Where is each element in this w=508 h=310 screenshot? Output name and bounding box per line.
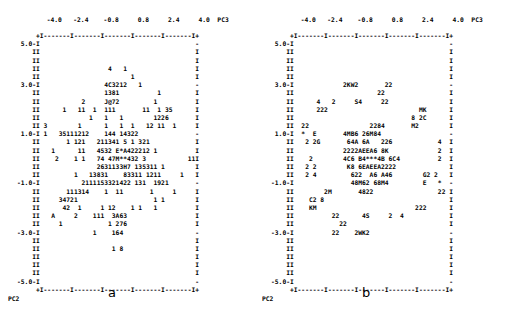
plot-grid-a: +I-------I-------I-------I-------I------… <box>6 32 250 294</box>
plot-row: II I <box>6 48 250 56</box>
axis-top-a: +I-------I-------I-------I-------I------… <box>6 32 250 40</box>
y-tick-label: I <box>6 147 36 155</box>
plot-row: II 1 11 4532 E*A422212 1 I <box>6 147 250 155</box>
y-tick-label: -1.0- <box>260 179 290 187</box>
x-axis-title-b: PC3 <box>471 16 482 23</box>
x-tick-labels-row-b: -4.0 -2.4 -0.8 0.8 2.4 4.0 <box>301 16 472 23</box>
y-tick-label: I <box>260 147 290 155</box>
plot-row: II 34721 1 1 I <box>6 196 250 204</box>
plot-row: II 8 2C I <box>260 114 504 122</box>
x-tick-labels-row-a: -4.0 -2.4 -0.8 0.8 2.4 4.0 <box>47 16 218 23</box>
plot-row: 5.0-I - <box>260 40 504 48</box>
plot-row: -3.0-I 22 2WK2 - <box>260 229 504 237</box>
y-tick-label: -5.0- <box>6 278 36 286</box>
plot-row: II 2 2G 64A 6A 226 4 I <box>260 138 504 146</box>
axis-top-b: +I-------I-------I-------I-------I------… <box>260 32 504 40</box>
plot-row: -5.0-I - <box>6 278 250 286</box>
plot-row: II 2 1 1 74 47M**432 3 11I <box>6 155 250 163</box>
y-tick-label: I <box>6 155 36 163</box>
y-tick-label: I <box>6 106 36 114</box>
plot-row: II 3 1 1 1 1 12 11 1 I <box>6 122 250 130</box>
plot-row: II I <box>260 57 504 65</box>
y-tick-label: I <box>6 237 36 245</box>
plot-grid-b: +I-------I-------I-------I-------I------… <box>260 32 504 294</box>
y-tick-label: I <box>6 220 36 228</box>
y-tick-label: I <box>6 269 36 277</box>
y-tick-label: I <box>260 188 290 196</box>
plot-row: II 2 2 K8 6EAEEA2222 I <box>260 163 504 171</box>
plot-row: II 1 121 211341 5 1 321 I <box>6 138 250 146</box>
plot-row: II 1 8 I <box>6 245 250 253</box>
y-tick-label: -1.0- <box>6 179 36 187</box>
plot-row: II 2 J@72 1 I <box>6 98 250 106</box>
y-tick-label: I <box>260 220 290 228</box>
y-tick-label: 1.0- <box>260 130 290 138</box>
y-tick-label: I <box>6 253 36 261</box>
plot-row: II I <box>6 269 250 277</box>
plot-row: -1.0-I 2111153321422 131 1921 - <box>6 179 250 187</box>
plot-row: II 4 1 I <box>6 65 250 73</box>
x-axis-ticklabels-b: -4.0 -2.4 -0.8 0.8 2.4 4.0 PC3 <box>278 8 504 32</box>
plot-row: 1.0-I 1 35111212 144 14322 - <box>6 130 250 138</box>
plot-row: II KM 222 I <box>260 204 504 212</box>
y-tick-label: I <box>6 188 36 196</box>
y-tick-label: I <box>260 89 290 97</box>
plot-row: II 22 2284 M2 I <box>260 122 504 130</box>
y-tick-label: I <box>260 237 290 245</box>
y-tick-label: I <box>260 138 290 146</box>
y-tick-label: I <box>260 171 290 179</box>
y-axis-title-a: PC2 <box>8 295 250 302</box>
y-tick-label: -5.0- <box>260 278 290 286</box>
y-tick-label: I <box>260 73 290 81</box>
y-tick-label: -3.0- <box>6 229 36 237</box>
plot-row: -1.0-I 48M62 68M4 E * - <box>260 179 504 187</box>
ascii-plot-a: -4.0 -2.4 -0.8 0.8 2.4 4.0 PC3 +I-------… <box>6 8 250 302</box>
plot-row: II I <box>260 48 504 56</box>
y-tick-label: I <box>6 73 36 81</box>
y-tick-label: I <box>6 57 36 65</box>
panel-b: -4.0 -2.4 -0.8 0.8 2.4 4.0 PC3 +I-------… <box>254 0 508 310</box>
plot-row: II I <box>260 73 504 81</box>
plot-row: 1.0-I * E 4MB6 26M84 - <box>260 130 504 138</box>
y-tick-label: 5.0- <box>6 40 36 48</box>
y-tick-label: I <box>260 269 290 277</box>
y-tick-label: I <box>260 261 290 269</box>
axis-bottom-a: +I-------I-------I-------I-------I------… <box>6 286 250 294</box>
plot-row: II I <box>260 245 504 253</box>
y-tick-label: I <box>260 65 290 73</box>
y-tick-label: 5.0- <box>260 40 290 48</box>
y-tick-label: I <box>6 114 36 122</box>
y-tick-label: I <box>260 163 290 171</box>
y-tick-label: 3.0- <box>6 81 36 89</box>
y-tick-label: I <box>6 163 36 171</box>
y-tick-label: I <box>260 253 290 261</box>
plot-row: II I <box>6 57 250 65</box>
plot-row: II 222 MK I <box>260 106 504 114</box>
panel-a: -4.0 -2.4 -0.8 0.8 2.4 4.0 PC3 +I-------… <box>0 0 254 310</box>
x-axis-title-a: PC3 <box>217 16 228 23</box>
y-tick-label: I <box>260 122 290 130</box>
ascii-plot-b: -4.0 -2.4 -0.8 0.8 2.4 4.0 PC3 +I-------… <box>260 8 504 302</box>
y-tick-label: I <box>260 48 290 56</box>
plot-row: II 4 2 S4 22 I <box>260 98 504 106</box>
y-tick-label: I <box>260 212 290 220</box>
y-tick-label: 3.0- <box>260 81 290 89</box>
y-tick-label: I <box>6 138 36 146</box>
y-tick-label: I <box>6 122 36 130</box>
plot-row: II 2M 4822 22 I <box>260 188 504 196</box>
y-tick-label: I <box>6 98 36 106</box>
plot-row: II 1 13831 83311 1211 1 I <box>6 171 250 179</box>
plot-row: 3.0-I 2KW2 22 - <box>260 81 504 89</box>
plot-row: II 22 I <box>260 220 504 228</box>
panel-letter-a: a <box>108 285 116 300</box>
plot-row: II 2631133H7 135311 1 I <box>6 163 250 171</box>
y-axis-title-b: PC2 <box>262 295 504 302</box>
plot-row: II I <box>260 269 504 277</box>
panel-letter-b: b <box>362 285 370 300</box>
y-tick-label: 1.0- <box>6 130 36 138</box>
y-tick-label: I <box>6 245 36 253</box>
y-tick-label: -3.0- <box>260 229 290 237</box>
plot-row: II 111314 1 11 1 1 I <box>6 188 250 196</box>
y-tick-label: I <box>6 204 36 212</box>
y-tick-label: I <box>6 171 36 179</box>
